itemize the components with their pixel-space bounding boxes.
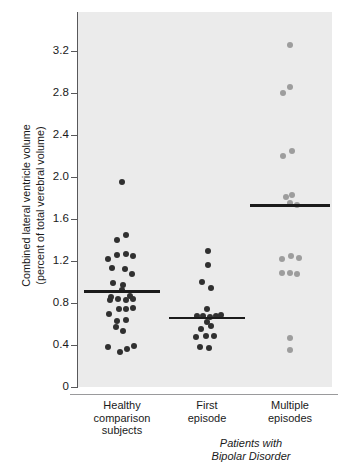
data-point (107, 297, 113, 303)
x-axis-line (70, 394, 338, 395)
y-axis-tick (71, 177, 78, 178)
data-point (199, 279, 205, 285)
data-point (130, 296, 136, 302)
x-axis-category-label-line: Multiple (235, 399, 342, 412)
data-point (198, 326, 204, 332)
data-point (208, 323, 214, 329)
group-mean-line (84, 290, 160, 293)
figure-scatter-plot: Combined lateral ventricle volume (perce… (0, 0, 342, 468)
data-point (211, 333, 217, 339)
data-point (122, 266, 128, 272)
data-point (287, 270, 293, 276)
data-point (283, 194, 289, 200)
data-point (123, 297, 129, 303)
x-axis-category-label-line: episodes (235, 412, 342, 425)
data-point (287, 42, 293, 48)
data-point (287, 347, 293, 353)
data-point (105, 344, 111, 350)
x-axis-category-label: Multipleepisodes (235, 399, 342, 424)
patient-group-label-line2: Bipolar Disorder (160, 450, 342, 463)
data-point (280, 90, 286, 96)
data-point (287, 335, 293, 341)
data-point (204, 306, 210, 312)
data-point (280, 153, 286, 159)
data-point (197, 344, 203, 350)
data-point (193, 334, 199, 340)
y-axis-tick (71, 387, 78, 388)
y-axis-tick-label: 0 (7, 381, 69, 393)
plot-data-area (78, 12, 332, 387)
y-axis-tick-label: 2.8 (7, 87, 69, 99)
y-axis-tick-label: 0.4 (7, 339, 69, 351)
data-point (115, 296, 121, 302)
plot-panel (78, 12, 332, 387)
y-axis-tick (71, 135, 78, 136)
data-point (130, 253, 136, 259)
patient-group-label: Patients with Bipolar Disorder (160, 437, 342, 463)
data-point (119, 179, 125, 185)
y-axis-tick (71, 261, 78, 262)
data-point (289, 192, 295, 198)
y-axis-tick (71, 93, 78, 94)
data-point (205, 262, 211, 268)
y-axis-tick-label: 3.2 (7, 45, 69, 57)
data-point (279, 256, 285, 262)
data-point (294, 271, 300, 277)
y-axis-tick-label: 0.8 (7, 297, 69, 309)
data-point (105, 256, 111, 262)
data-point (123, 306, 129, 312)
data-point (129, 271, 135, 277)
data-point (206, 345, 212, 351)
data-point (116, 306, 122, 312)
data-point (106, 311, 112, 317)
data-point (110, 280, 116, 286)
data-point (114, 237, 120, 243)
patient-group-label-line1: Patients with (160, 437, 342, 450)
y-axis-tick-labels: 00.40.81.21.62.02.42.83.2 (0, 0, 69, 468)
data-point (131, 343, 137, 349)
data-point (279, 270, 285, 276)
data-point (288, 253, 294, 259)
x-axis-category-label-line: subjects (67, 424, 177, 437)
data-point (120, 328, 126, 334)
data-point (130, 305, 136, 311)
y-axis-tick-label: 2.4 (7, 129, 69, 141)
data-point (117, 349, 123, 355)
data-point (123, 251, 129, 257)
data-point (208, 285, 214, 291)
data-point (123, 317, 129, 323)
data-point (114, 252, 120, 258)
group-mean-line (250, 204, 330, 207)
data-point (113, 324, 119, 330)
y-axis-tick (71, 51, 78, 52)
y-axis-tick-label: 2.0 (7, 171, 69, 183)
data-point (109, 265, 115, 271)
y-axis-tick (71, 345, 78, 346)
y-axis-tick (71, 303, 78, 304)
data-point (124, 346, 130, 352)
data-point (296, 255, 302, 261)
y-axis-tick (71, 219, 78, 220)
data-point (287, 84, 293, 90)
data-point (203, 333, 209, 339)
y-axis-tick-label: 1.2 (7, 255, 69, 267)
y-axis-tick-label: 1.6 (7, 213, 69, 225)
data-point (289, 148, 295, 154)
data-point (205, 248, 211, 254)
data-point (114, 318, 120, 324)
data-point (123, 232, 129, 238)
group-mean-line (169, 317, 245, 320)
